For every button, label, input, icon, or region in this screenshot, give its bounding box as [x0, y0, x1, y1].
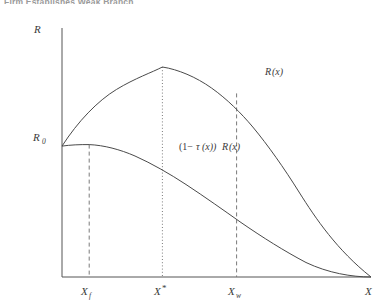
- revenue-curve-label-arg: (x): [272, 66, 284, 78]
- x-tick-xstar-base: X: [153, 285, 162, 297]
- x-tick-xf-base: X: [80, 285, 89, 297]
- x-tick-xstar: X *: [153, 283, 167, 297]
- y-origin-base: R: [32, 131, 40, 143]
- revenue-curve-label: R (x): [264, 66, 284, 78]
- x-tick-xf: X f: [80, 285, 92, 300]
- after-tax-label-prefix: (1−: [179, 141, 193, 153]
- chart-plot-area: R R 0 R (x) (1− τ (x)) R (x) X f: [0, 0, 384, 308]
- y-axis-label: R: [33, 23, 41, 35]
- after-tax-label-tau-arg: (x)): [202, 141, 217, 153]
- after-tax-curve: [62, 145, 371, 277]
- x-tick-xstar-superscript: *: [162, 283, 167, 293]
- revenue-curve: [62, 67, 371, 277]
- y-origin-subscript: 0: [42, 137, 46, 146]
- after-tax-label-tau: τ: [196, 141, 200, 152]
- y-origin-label: R 0: [32, 131, 46, 146]
- x-tick-xw-base: X: [227, 285, 236, 297]
- after-tax-label-arg: (x): [229, 141, 241, 153]
- x-tick-xf-subscript: f: [89, 291, 92, 300]
- x-tick-xw: X w: [227, 285, 241, 300]
- x-tick-xw-subscript: w: [236, 291, 241, 300]
- after-tax-curve-label: (1− τ (x)) R (x): [179, 141, 241, 153]
- x-axis-label: X: [364, 285, 373, 297]
- chart-figure: Firm Establishes Weak Branch R R 0 R (x)…: [0, 0, 384, 308]
- after-tax-label-base: R: [221, 141, 228, 152]
- revenue-curve-label-base: R: [264, 66, 271, 77]
